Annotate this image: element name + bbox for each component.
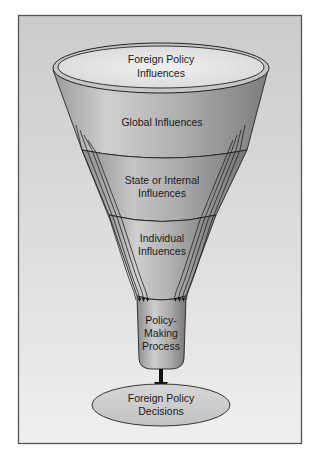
funnel-diagram: Foreign Policy Influences Global Influen… bbox=[0, 0, 314, 456]
rim-label-line1: Foreign Policy bbox=[128, 53, 195, 65]
state-influences-label-line2: Influences bbox=[138, 187, 186, 199]
process-label-line1: Policy- bbox=[145, 314, 177, 326]
state-influences-label-line1: State or Internal bbox=[125, 174, 200, 186]
diagram-canvas: Foreign Policy Influences Global Influen… bbox=[0, 0, 314, 456]
output-label-line1: Foreign Policy bbox=[128, 392, 195, 404]
process-label-line2: Making bbox=[144, 327, 178, 339]
individual-influences-label-line1: Individual bbox=[140, 232, 184, 244]
rim-label-line2: Influences bbox=[137, 67, 185, 79]
global-influences-label: Global Influences bbox=[121, 116, 202, 128]
process-label-line3: Process bbox=[142, 340, 180, 352]
individual-influences-label-line2: Influences bbox=[138, 245, 186, 257]
output-label-line2: Decisions bbox=[138, 405, 184, 417]
